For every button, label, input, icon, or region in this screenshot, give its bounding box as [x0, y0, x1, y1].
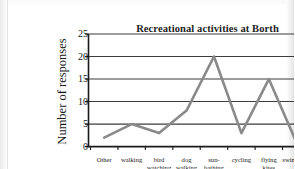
gridlines [89, 34, 295, 124]
x-tick-label: birdwatching [147, 156, 171, 169]
x-tick-label-line: cycling [232, 156, 251, 164]
x-tick-label-line: watching [147, 164, 171, 169]
x-tick-label-line: swimming [282, 156, 294, 164]
scan-artifact-top-edge [0, 0, 294, 4]
line-chart: Recreational activities at Borth Number … [40, 16, 294, 169]
x-tick-label: cycling [232, 156, 251, 164]
x-tick-label: sun-bathing [204, 156, 224, 169]
x-tick-label-line: walking [176, 164, 197, 169]
scan-artifact-left-edge [0, 0, 8, 169]
x-tick-label: swimming [282, 156, 294, 164]
x-tick-label: walking [121, 156, 142, 164]
x-tick-label-line: Other [97, 156, 112, 164]
x-axis-tick-labels: Otherwalkingbirdwatchingdogwalkingsun-ba… [84, 156, 294, 169]
x-tick-label-line: bird [147, 156, 171, 164]
data-series-line [104, 57, 294, 143]
x-tick-label-line: sun- [204, 156, 224, 164]
x-tick-label: dogwalking [176, 156, 197, 169]
x-tick-label-line: bathing [204, 164, 224, 169]
x-tick-label-line: dog [176, 156, 197, 164]
x-tick-label-line: walking [121, 156, 142, 164]
plot-area [40, 16, 294, 169]
x-tick-label-line: flying [261, 156, 277, 164]
x-tick-label: flyingkites [261, 156, 277, 169]
x-tick-label-line: kites [261, 164, 277, 169]
x-tick-label: Other [97, 156, 112, 164]
